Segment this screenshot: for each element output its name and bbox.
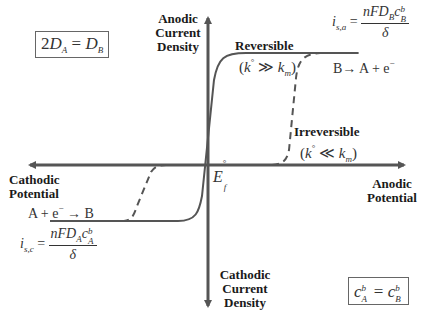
- coef: 2: [41, 34, 50, 53]
- sub: A: [88, 236, 94, 246]
- sup: °: [312, 143, 316, 153]
- numerator: nFDAcbA: [49, 226, 97, 246]
- label-line: Anodic: [148, 12, 208, 26]
- label-line: Current: [214, 282, 276, 296]
- sub: B: [400, 14, 406, 24]
- fraction: nFDBcbB δ: [361, 4, 409, 41]
- arrow: →: [342, 61, 356, 76]
- label-line: Potential: [9, 187, 60, 201]
- cathodic-reaction: A + e− → B: [28, 203, 94, 222]
- sup: −: [58, 203, 63, 213]
- origin-sup: °: [223, 158, 227, 168]
- reactant: B: [333, 61, 342, 76]
- op: ≪: [319, 145, 335, 161]
- concentration-condition-box: cbA = cbB: [348, 277, 409, 305]
- anodic-current-label: Anodic Current Density: [148, 12, 208, 54]
- label-line: Density: [214, 296, 276, 310]
- reversible-label: Reversible: [235, 39, 293, 53]
- origin-E: E: [213, 168, 223, 185]
- product: A + e: [359, 61, 389, 76]
- reversible-condition: (k° ≫ km): [239, 57, 296, 78]
- label-line: Current: [148, 26, 208, 40]
- km-sub: m: [284, 68, 291, 78]
- eq: =: [350, 14, 358, 29]
- c-B: c: [388, 282, 396, 301]
- sub: s,c: [24, 244, 34, 254]
- reactant: A + e: [28, 206, 58, 221]
- cathodic-current-label: Cathodic Current Density: [214, 268, 276, 310]
- sup: b: [88, 226, 93, 236]
- diffusion-condition-box: 2DA = DB: [35, 31, 109, 58]
- irreversible-curve-cathodic: [110, 165, 166, 221]
- anodic-limit-formula: is,a = nFDBcbB δ: [332, 4, 409, 41]
- k: k: [305, 145, 312, 161]
- sup: b: [395, 283, 400, 293]
- eq: =: [374, 282, 384, 301]
- numerator: nFDBcbB: [361, 4, 409, 24]
- sub: B: [98, 45, 104, 55]
- k: k: [244, 59, 251, 75]
- c-A: c: [354, 282, 362, 301]
- sub: B: [395, 294, 401, 304]
- D-B: D: [85, 34, 97, 53]
- fraction: nFDAcbA δ: [49, 226, 97, 263]
- sup: °: [251, 57, 255, 67]
- nFD: nFD: [51, 226, 77, 241]
- sub: A: [62, 45, 68, 55]
- product: B: [85, 206, 94, 221]
- label-line: Anodic: [362, 177, 422, 191]
- eq: =: [72, 34, 82, 53]
- origin-sub: f: [224, 182, 227, 192]
- op: ≫: [258, 59, 274, 75]
- nFD: nFD: [363, 4, 389, 19]
- cathodic-limit-formula: is,c = nFDAcbA δ: [20, 226, 97, 263]
- eq: =: [37, 236, 45, 251]
- irreversible-condition: (k° ≪ km): [300, 143, 357, 164]
- D-A: D: [50, 34, 62, 53]
- sup: b: [362, 283, 367, 293]
- formal-potential-label: E°f: [213, 168, 225, 188]
- sup: −: [390, 58, 395, 68]
- anodic-potential-label: Anodic Potential: [362, 177, 422, 205]
- km-sub: m: [345, 154, 352, 164]
- denominator: δ: [49, 246, 97, 263]
- label-line: Cathodic: [9, 173, 60, 187]
- label-line: Potential: [362, 191, 422, 205]
- sup: b: [400, 4, 405, 14]
- sub: A: [362, 294, 368, 304]
- denominator: δ: [361, 24, 409, 41]
- irreversible-label: Irreversible: [294, 125, 359, 139]
- label-line: Density: [148, 40, 208, 54]
- arrow: →: [67, 206, 81, 221]
- sub: s,a: [336, 22, 346, 32]
- cathodic-potential-label: Cathodic Potential: [9, 173, 60, 201]
- label-line: Cathodic: [214, 268, 276, 282]
- anodic-reaction: B→ A + e−: [333, 58, 395, 77]
